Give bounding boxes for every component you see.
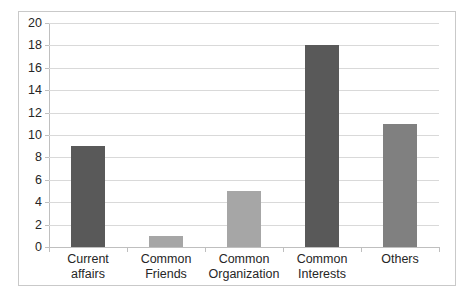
category-label-line: Organization <box>205 267 283 282</box>
category-label-line: Interests <box>283 267 361 282</box>
y-axis-tick-label: 14 <box>28 84 42 97</box>
y-axis-tick-label: 2 <box>35 218 42 231</box>
y-axis-tick-mark <box>45 135 49 136</box>
x-axis-category-label: CommonInterests <box>283 252 361 282</box>
gridline <box>49 247 439 248</box>
x-axis-category-labels: Current affairsCommonFriendsCommonOrgani… <box>49 252 439 292</box>
y-axis-tick-label: 18 <box>28 39 42 52</box>
bar[interactable] <box>71 146 105 247</box>
category-label-line: Others <box>361 252 439 267</box>
y-axis-tick-label: 8 <box>35 151 42 164</box>
y-axis-tick-mark <box>45 68 49 69</box>
x-axis-category-label: Others <box>361 252 439 267</box>
category-label-line: Common <box>127 252 205 267</box>
gridline <box>49 135 439 136</box>
bar[interactable] <box>305 45 339 247</box>
category-label-line: Current affairs <box>49 252 127 282</box>
bar[interactable] <box>149 236 183 247</box>
y-axis-tick-label: 10 <box>28 129 42 142</box>
gridline <box>49 90 439 91</box>
y-axis-tick-label: 20 <box>28 17 42 30</box>
category-label-line: Common <box>205 252 283 267</box>
y-axis-tick-label: 4 <box>35 196 42 209</box>
y-axis-tick-mark <box>45 45 49 46</box>
y-axis-tick-mark <box>45 90 49 91</box>
plot-area: 20181614121086420 <box>49 23 439 247</box>
y-axis-tick-mark <box>45 157 49 158</box>
chart-frame: 20181614121086420 Current affairsCommonF… <box>18 11 456 286</box>
bar[interactable] <box>383 124 417 247</box>
x-axis-category-label: CommonFriends <box>127 252 205 282</box>
category-label-line: Common <box>283 252 361 267</box>
bar[interactable] <box>227 191 261 247</box>
y-axis-tick-mark <box>45 225 49 226</box>
category-label-line: Friends <box>127 267 205 282</box>
y-axis-tick-mark <box>45 23 49 24</box>
y-axis-tick-mark <box>45 113 49 114</box>
y-axis-tick-label: 16 <box>28 62 42 75</box>
x-axis-category-label: CommonOrganization <box>205 252 283 282</box>
gridline <box>49 23 439 24</box>
y-axis-tick-label: 6 <box>35 174 42 187</box>
y-axis-tick-label: 0 <box>35 241 42 254</box>
y-axis-tick-mark <box>45 202 49 203</box>
gridline <box>49 180 439 181</box>
gridline <box>49 113 439 114</box>
x-axis-category-label: Current affairs <box>49 252 127 282</box>
x-axis-tick-mark <box>439 247 440 252</box>
gridline <box>49 68 439 69</box>
y-axis-tick-mark <box>45 180 49 181</box>
y-axis-tick-label: 12 <box>28 106 42 119</box>
gridline <box>49 45 439 46</box>
gridline <box>49 157 439 158</box>
